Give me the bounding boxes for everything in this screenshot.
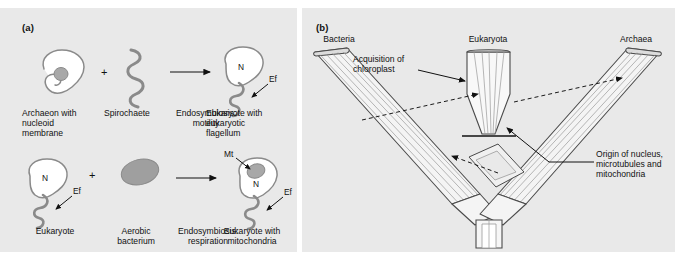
archaea-branch <box>498 48 661 204</box>
caption-archaeon: Archaeon with nucleoid membrane <box>22 108 102 139</box>
eukaryote-flagellum-cell <box>225 47 268 116</box>
nucleus-tag-row1: N <box>238 62 244 72</box>
flagellum-tag-row2-left: Ef <box>73 186 81 196</box>
flagellum-tag-row1: Ef <box>269 74 277 84</box>
plus-sign-1: + <box>101 66 107 78</box>
eukaryota-branch-label: Eukaryota <box>457 34 519 44</box>
figure-root: (a) <box>0 0 675 260</box>
eukaryote-mitochondria-cell <box>236 158 283 229</box>
archaea-branch-label: Archaea <box>605 34 667 44</box>
caption-eukaryote-mitochondria: Eukaryote with mitochondria <box>208 226 296 246</box>
caption-aerobic-bacterium: Aerobic bacterium <box>102 226 170 246</box>
panel-a: (a) <box>0 8 297 252</box>
caption-spirochaete: Spirochaete <box>104 108 168 118</box>
archaeon-cell <box>43 50 84 93</box>
spirochaete-cell <box>128 50 143 107</box>
plus-sign-2: + <box>89 169 95 181</box>
nucleus-tag-row2-right: N <box>253 179 259 189</box>
caption-eukaryote: Eukaryote <box>14 226 96 236</box>
flagellum-tag-row2-right: Ef <box>284 187 292 197</box>
mitochondrion-tag: Mt <box>224 149 233 159</box>
eukaryote-cell <box>29 159 72 228</box>
caption-eukaryote-flagellum: Eukaryote with eukaryotic flagellum <box>206 108 292 139</box>
nucleus-tag-row2-left: N <box>42 173 48 183</box>
eukaryota-branch <box>462 50 516 136</box>
annotation-origin-of-nucleus: Origin of nucleus, microtubules and mito… <box>596 149 675 180</box>
panel-b: (b) <box>302 8 675 252</box>
panel-b-tree-graphics <box>302 8 675 252</box>
bacteria-branch-label: Bacteria <box>308 34 370 44</box>
aerobic-bacterium <box>119 155 162 188</box>
annotation-acquisition-of-chloroplast: Acquisition of chloroplast <box>353 54 431 74</box>
